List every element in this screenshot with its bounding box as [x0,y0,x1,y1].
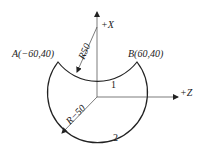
r50-label: R50 [75,42,92,62]
point-b-label: B(60,40) [128,48,164,60]
r-50-label: R−50 [63,102,87,127]
z-axis-label: +Z [180,87,193,98]
profile-outline [48,62,148,143]
point-a-label: A(−60,40) [11,48,55,60]
x-axis-label: +X [101,19,115,30]
segment-2-label: 2 [113,132,118,143]
segment-1-label: 1 [111,79,116,90]
arc-toolpath-diagram: +X +Z A(−60,40) B(60,40) R50 R−50 1 2 [0,0,205,160]
